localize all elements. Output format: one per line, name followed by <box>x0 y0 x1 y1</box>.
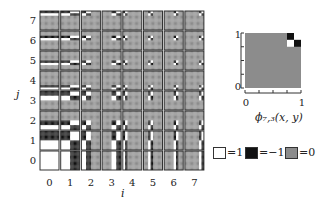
legend-swatch-plus-one <box>213 147 226 159</box>
legend-label-zero: =0 <box>299 147 315 159</box>
inset-x-tick-left: 0 <box>240 98 252 108</box>
legend-swatch-zero <box>285 147 298 159</box>
legend-swatch-minus-one <box>245 147 258 159</box>
inset-pattern-cell <box>287 33 294 40</box>
inset-pattern-cell <box>287 40 294 47</box>
inset-plot <box>0 0 327 203</box>
inset-x-tick-right: 1 <box>296 98 308 108</box>
inset-y-tick-bottom: 0 <box>232 82 244 92</box>
inset-pattern-cell <box>294 33 301 40</box>
legend-label-minus-one: =−1 <box>259 147 284 159</box>
inset-y-tick-top: 1 <box>232 30 244 40</box>
inset-caption: ϕ₇,₃(x, y) <box>255 111 303 124</box>
inset-pattern-cell <box>294 40 301 47</box>
legend-label-plus-one: =1 <box>227 147 243 159</box>
